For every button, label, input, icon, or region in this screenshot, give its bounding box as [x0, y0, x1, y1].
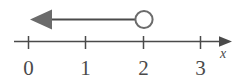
- tick-label-2: 2: [138, 56, 149, 80]
- number-line-figure: 0 1 2 3 x: [0, 0, 240, 83]
- open-circle-endpoint-icon: [135, 11, 152, 28]
- tick-label-1: 1: [80, 56, 91, 80]
- tick-label-0: 0: [23, 56, 34, 80]
- number-line-plot: 0 1 2 3 x: [0, 0, 240, 83]
- solution-ray-left-arrowhead-icon: [30, 10, 52, 30]
- axis-label-x: x: [219, 46, 227, 61]
- tick-label-3: 3: [195, 56, 206, 80]
